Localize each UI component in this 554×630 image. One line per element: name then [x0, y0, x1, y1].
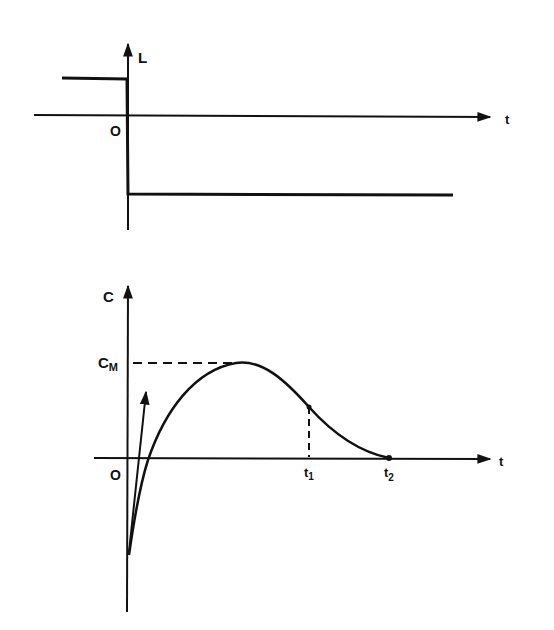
bottom-x-axis: [94, 458, 490, 459]
bottom-origin-label: O: [110, 467, 121, 483]
top-y-axis-label: L: [138, 49, 147, 66]
top-x-axis-label: t: [505, 112, 510, 127]
bottom-x-axis-label: t: [499, 454, 504, 469]
bottom-y-axis: [127, 286, 128, 612]
bottom-y-axis-label: C: [103, 288, 114, 305]
top-plot: L O t: [34, 44, 510, 230]
t1-point: [307, 405, 312, 410]
cm-label: CM: [98, 354, 118, 373]
bottom-plot: C CM O t1 t2 t: [94, 286, 504, 612]
top-x-axis: [34, 115, 490, 117]
diagram-canvas: L O t C CM O t1 t2 t: [0, 0, 554, 630]
t2-point: [386, 455, 392, 461]
t1-label: t1: [304, 465, 314, 482]
t2-label: t2: [384, 465, 394, 483]
top-origin-label: O: [110, 123, 121, 139]
